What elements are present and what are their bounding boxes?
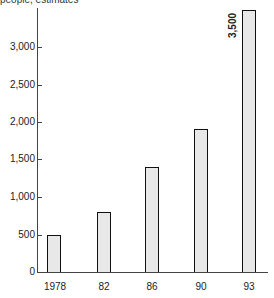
y-tick-label: 3,000 — [10, 41, 35, 52]
x-tick-label: 1978 — [35, 281, 75, 292]
y-tick — [38, 47, 42, 48]
x-tick-label: 93 — [229, 281, 269, 292]
y-tick — [38, 159, 42, 160]
y-tick-label: 2,500 — [10, 79, 35, 90]
bar-82 — [97, 212, 111, 272]
y-tick-label: 1,000 — [10, 191, 35, 202]
x-tick-label: 82 — [84, 281, 124, 292]
y-tick-label: 500 — [18, 229, 35, 240]
y-tick — [38, 197, 42, 198]
y-tick-label: 1,500 — [10, 153, 35, 164]
chart-subtitle: people, estimates — [0, 0, 78, 5]
y-tick — [38, 235, 42, 236]
bar-93 — [242, 10, 256, 272]
y-tick — [38, 85, 42, 86]
bar-1978 — [47, 235, 61, 272]
x-tick-label: 90 — [181, 281, 221, 292]
x-tick-label: 86 — [132, 281, 172, 292]
y-tick-label: 2,000 — [10, 116, 35, 127]
bar-86 — [145, 167, 159, 272]
bar-90 — [194, 129, 208, 272]
y-tick-label: 0 — [29, 266, 35, 277]
bar-value-label: 3,500 — [227, 13, 238, 38]
x-axis — [37, 272, 268, 273]
y-tick — [38, 272, 42, 273]
y-tick — [38, 122, 42, 123]
